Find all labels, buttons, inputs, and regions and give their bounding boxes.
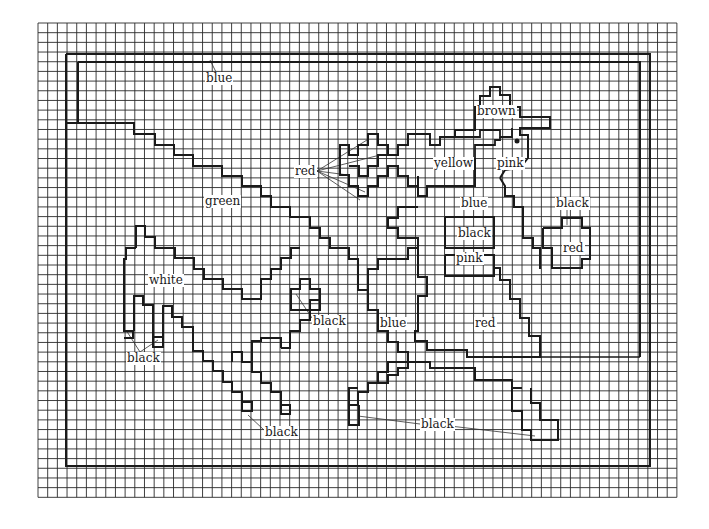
duck-yellow-pink-divider-outline [475,137,500,158]
duck-eye-dot [515,139,520,144]
label-flower-red: red [562,242,585,255]
label-background-green: green [204,195,241,208]
cat-leg-2-outline [163,306,252,411]
label-flower-black: black [555,197,590,210]
label-paw-black: black [126,352,161,365]
lower-body-2-outline [378,362,522,388]
label-feet-black: black [420,418,455,431]
cat-eye-outline [291,279,320,310]
duck-body-left-outline [368,207,418,290]
label-wing-red: red [294,165,317,178]
label-duck-head-brown: brown [476,105,517,118]
label-tail-black: black [264,426,299,439]
pattern-outlines [66,54,650,466]
label-cat-white: white [148,274,184,287]
label-duck-body-blue: blue [460,197,488,210]
label-patch-black: black [457,227,492,240]
label-lower-blue: blue [379,317,407,330]
cat-tail-outer-outline [252,338,281,362]
label-lower-red: red [474,317,497,330]
label-duck-yellow: yellow [433,157,474,170]
label-eye-black: black [312,315,347,328]
label-patch-pink: pink [455,252,484,265]
pattern-chart [0,0,709,529]
tail-black-leader-line [248,415,264,430]
label-border-blue: blue [205,72,233,85]
label-duck-cheek-pink: pink [496,157,525,170]
cat-top-outline [136,226,300,299]
